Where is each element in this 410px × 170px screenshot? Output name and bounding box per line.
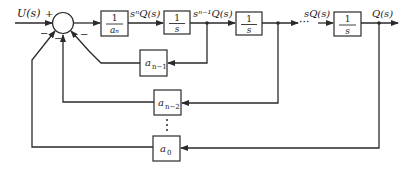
signal-label-sq: sQ(s) [304,8,330,19]
minus-sign-left: − [40,28,48,39]
integrator-block-1: 1 s [164,11,190,34]
gain-block-numerator: 1 [112,13,118,23]
minus-sign-middle: − [54,33,62,44]
integrator-2-denominator: s [247,25,252,35]
ellipsis-vertical-dot [166,119,168,121]
fb-an2-sub: n−2 [165,103,180,111]
feedback-block-an1: a n−1 [140,50,167,76]
gain-block-denominator: aₙ [110,25,119,35]
ellipsis-vertical-dot [166,124,168,126]
fb-a0-label: a [160,143,166,154]
signal-label-sn: sⁿQ(s) [130,8,160,19]
summing-junction [53,13,74,34]
fb-a0-sub: 0 [167,149,171,157]
signal-label-sn-1: sⁿ⁻¹Q(s) [193,8,233,19]
feedback-block-an2: a n−2 [154,90,181,115]
output-label: Q(s) [372,8,393,19]
fb-an1-label: a [145,57,151,68]
integrator-3-numerator: 1 [345,14,351,24]
plus-sign: + [45,8,53,19]
integrator-2-numerator: 1 [246,14,252,24]
block-diagram: U(s) + − − − 1 aₙ sⁿQ(s) 1 s sⁿ⁻¹Q(s) 1 … [0,0,410,170]
gain-block-1-over-an: 1 aₙ [101,11,128,36]
feedback-line-a0-in [181,23,379,148]
integrator-block-2: 1 s [236,12,262,35]
integrator-block-3: 1 s [334,12,361,36]
integrator-1-denominator: s [175,24,180,34]
integrator-1-numerator: 1 [174,13,180,23]
feedback-block-a0: a 0 [153,136,180,161]
integrator-3-denominator: s [345,26,350,36]
fb-an2-label: a [158,97,164,108]
fb-an1-sub: n−1 [152,63,167,71]
ellipsis-vertical-dot [166,129,168,131]
minus-sign-right: − [80,29,88,40]
feedback-line-a0-out [32,31,153,147]
input-label: U(s) [17,7,41,20]
